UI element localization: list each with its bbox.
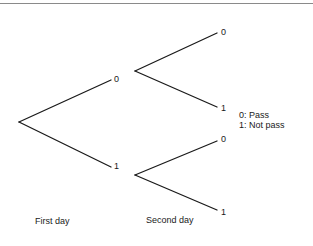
- branch-0-to-01: [135, 71, 217, 107]
- node-label-second-day-00: 0: [221, 27, 226, 37]
- level-label-first-day: First day: [35, 216, 70, 226]
- branch-root-to-1: [19, 122, 111, 167]
- legend-item-not-pass: 1: Not pass: [239, 120, 285, 130]
- legend-item-pass: 0: Pass: [239, 110, 285, 120]
- level-label-second-day: Second day: [146, 215, 194, 225]
- branch-0-to-00: [135, 33, 217, 71]
- branch-1-to-11: [135, 175, 217, 210]
- node-label-second-day-10: 0: [221, 134, 226, 144]
- branch-1-to-10: [135, 141, 217, 175]
- node-label-first-day-0: 0: [114, 74, 119, 84]
- node-label-second-day-11: 1: [221, 207, 226, 217]
- node-label-second-day-01: 1: [221, 103, 226, 113]
- branch-root-to-0: [19, 80, 111, 122]
- legend: 0: Pass 1: Not pass: [239, 110, 285, 130]
- node-label-first-day-1: 1: [114, 161, 119, 171]
